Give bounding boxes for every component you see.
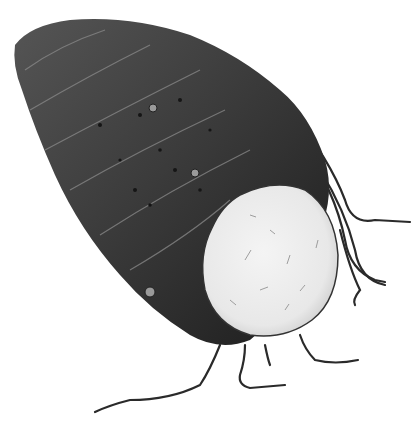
taro-root-illustration — [0, 0, 419, 427]
